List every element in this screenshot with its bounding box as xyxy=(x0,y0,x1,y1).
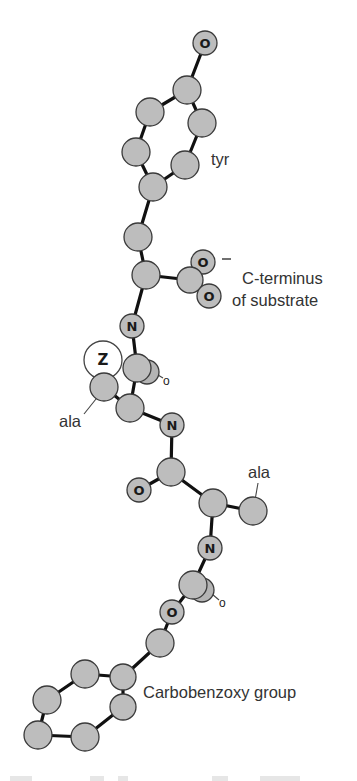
atom-carbon-ring xyxy=(122,138,150,166)
atom-carbon-benzene xyxy=(33,686,61,714)
label-tyr: tyr xyxy=(211,150,230,168)
atom-label-o-ester: O xyxy=(166,605,177,620)
atom-carbon-ch2-benzyl xyxy=(146,629,174,657)
atom-label-o-carboxylate-2: O xyxy=(203,289,214,304)
atom-carbon-ring xyxy=(171,151,199,179)
peptide-substrate-diagram: O O O N Z o N O xyxy=(0,0,357,781)
atom-carbon-carbonyl-2 xyxy=(123,354,151,382)
label-o-small-1: o xyxy=(163,374,170,388)
atom-label-n-2: N xyxy=(167,418,178,433)
atom-label-n-3: N xyxy=(205,541,216,556)
label-carbobenzoxy-group: Carbobenzoxy group xyxy=(143,683,296,701)
atom-carbon-ch3-ala-upper xyxy=(90,373,118,401)
leader-lines xyxy=(84,375,258,600)
atom-carbon-benzene xyxy=(71,723,99,751)
atom-carbon-alpha-ala-upper xyxy=(116,394,144,422)
label-of-substrate: of substrate xyxy=(232,291,318,309)
atom-carbon-ch2-tyr xyxy=(124,223,152,251)
atom-carbon-benzene xyxy=(110,694,136,720)
atom-label-o-carbonyl-3: O xyxy=(133,483,144,498)
atom-label-o-phenol: O xyxy=(199,36,210,51)
label-c-terminus: C-terminus xyxy=(242,269,323,287)
atom-carbon-ring xyxy=(136,98,164,126)
atom-carbon-alpha-ala-lower xyxy=(199,489,227,517)
atom-carbon-alpha-tyr xyxy=(132,261,160,289)
atom-label-o-carboxylate-1: O xyxy=(197,255,208,270)
atom-carbon-carbonyl-4 xyxy=(179,571,207,599)
cropped-caption xyxy=(10,776,300,781)
atom-carbon-ring xyxy=(139,173,167,201)
atom-label-n-1: N xyxy=(127,319,138,334)
label-ala-lower: ala xyxy=(248,463,271,481)
label-o-small-2: o xyxy=(219,596,226,610)
atom-carbon-ring xyxy=(173,76,201,104)
annotations: tyr C-terminus of substrate ala ala Carb… xyxy=(59,150,323,701)
atom-carbon-benzene xyxy=(110,664,136,690)
atoms: O O O N Z o N O xyxy=(24,31,267,751)
label-ala-upper: ala xyxy=(59,412,82,430)
atom-carbon-ring xyxy=(188,109,216,137)
atom-carbon-benzene xyxy=(71,660,99,688)
atom-carbon-carbonyl-3 xyxy=(157,458,185,486)
atom-label-zinc: Z xyxy=(98,351,109,369)
atom-carbon-benzene xyxy=(24,721,52,749)
atom-carbon-ch3-ala-lower xyxy=(239,497,267,525)
